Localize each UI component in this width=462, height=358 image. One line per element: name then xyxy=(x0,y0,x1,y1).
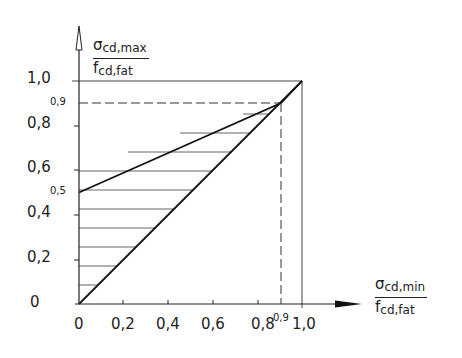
x-tick-09: 0,9 xyxy=(273,312,289,323)
hatching xyxy=(79,114,268,285)
y-tick-10: 1,0 xyxy=(27,69,51,87)
x-tick-02: 0,2 xyxy=(111,315,135,333)
y-tick-09: 0,9 xyxy=(50,96,66,107)
upper-limit-line xyxy=(79,81,302,193)
y-tick-08: 0,8 xyxy=(27,114,51,132)
x-axis-arrow xyxy=(335,301,362,308)
y-tick-02: 0,2 xyxy=(27,248,51,266)
y-title-num-sub: cd,max xyxy=(103,41,147,55)
x-tick-04: 0,4 xyxy=(156,315,180,333)
y-tick-0: 0 xyxy=(30,293,40,311)
x-axis-title: σcd,min fcd,fat xyxy=(375,276,427,319)
y-title-num: σ xyxy=(93,36,103,54)
x-title-num-sub: cd,min xyxy=(385,280,426,294)
y-axis-title: σcd,max fcd,fat xyxy=(93,37,149,80)
x-tick-0: 0 xyxy=(74,315,84,333)
x-title-den-sub: cd,fat xyxy=(380,303,414,317)
y-tick-05: 0,5 xyxy=(50,185,66,196)
x-tick-10: 1,0 xyxy=(292,315,316,333)
x-tick-06: 0,6 xyxy=(201,315,225,333)
x-tick-08: 0,8 xyxy=(251,315,275,333)
x-title-num: σ xyxy=(375,275,385,293)
y-title-den-sub: cd,fat xyxy=(98,64,132,78)
y-tick-04: 0,4 xyxy=(27,203,51,221)
y-axis-arrow xyxy=(76,26,82,50)
y-tick-06: 0,6 xyxy=(27,158,51,176)
y-ticks xyxy=(74,126,79,260)
lower-limit-line xyxy=(79,81,302,304)
